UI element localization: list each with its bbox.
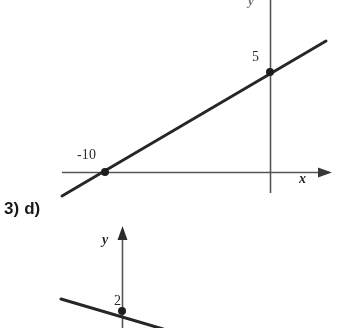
lower-y-axis-label: y [102, 233, 108, 247]
lower-y-axis-arrow-icon [118, 226, 128, 240]
lower-graph: 2 y [0, 0, 338, 328]
lower-plot-line [61, 299, 163, 328]
lower-graph-canvas [0, 0, 338, 328]
worksheet-page: -10 5 x y 3) d) 2 y [0, 0, 338, 328]
lower-y-intercept-point [118, 307, 126, 315]
lower-y-intercept-label: 2 [114, 294, 121, 308]
